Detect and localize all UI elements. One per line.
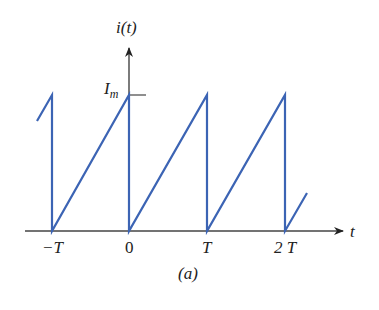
figure-caption: (a)	[178, 265, 198, 282]
tick-label-neg-T: −T	[42, 239, 63, 256]
tick-label-T: T	[202, 239, 211, 256]
y-axis-label: i(t)	[116, 19, 137, 36]
peak-label: Im	[104, 80, 118, 97]
peak-label-sub: m	[110, 87, 119, 101]
tick-label-0: 0	[125, 239, 134, 256]
x-axis-label: t	[350, 223, 355, 240]
peak-label-main: I	[104, 79, 110, 98]
sawtooth-figure: i(t) Im t −T 0 T 2 T (a)	[0, 0, 379, 310]
sawtooth-waveform	[37, 95, 307, 231]
tick-label-2T: 2 T	[274, 239, 296, 256]
